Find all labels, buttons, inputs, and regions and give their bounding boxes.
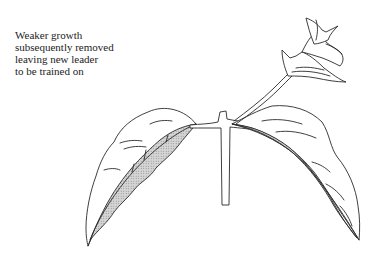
right-leaf: [232, 106, 360, 240]
left-leaf: [86, 108, 196, 246]
plant-illustration: [0, 0, 384, 258]
shoot-tip-leaves: [282, 18, 346, 82]
